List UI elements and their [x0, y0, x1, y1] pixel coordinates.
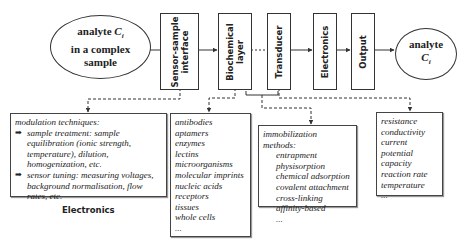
block-label: Sensor-sample	[170, 16, 180, 87]
list-item: ...	[381, 190, 438, 201]
electronics-caption: Electronics	[62, 205, 115, 215]
output-analyte-ellipse: analyte Ci	[395, 28, 457, 80]
analyte-subscript: i	[429, 59, 431, 67]
immobilization-methods-note: immobilization methods: entrapment physi…	[258, 125, 357, 207]
list-item: physisorption	[263, 161, 352, 172]
list-item: potential	[381, 148, 438, 159]
analyte-subscript: i	[122, 32, 124, 40]
list-item: chemical adsorption	[263, 171, 352, 182]
note-bullet-text: sample treatment: sample equilibration (…	[27, 128, 162, 170]
analyte-symbol: C	[421, 51, 428, 63]
transducer-block: Transducer	[267, 13, 291, 90]
note-title: immobilization methods:	[263, 129, 352, 150]
list-item: reaction rate	[381, 169, 438, 180]
note-title: modulation techniques:	[15, 117, 162, 128]
sensor-sample-interface-block: Sensor-sampleinterface	[160, 13, 199, 90]
output-analyte-label: analyte	[409, 38, 443, 51]
list-item: ...	[175, 223, 246, 234]
electronics-block: Electronics	[313, 13, 337, 90]
block-label: Transducer	[274, 25, 284, 78]
biochemical-layer-block: Biochemicallayer	[218, 13, 252, 90]
list-item: cross-linking	[263, 193, 352, 204]
list-item: conductivity	[381, 127, 438, 138]
list-item: entrapment	[263, 150, 352, 161]
list-item: enzymes	[175, 138, 246, 149]
input-analyte-label: analyte	[77, 25, 114, 37]
list-item: temperature	[381, 180, 438, 191]
biorecognition-elements-note: antibodies aptamers enzymes lectins micr…	[170, 113, 251, 237]
list-item: microorganisms	[175, 159, 246, 170]
input-analyte-line2: in a complex	[71, 43, 130, 56]
input-analyte-ellipse: analyte Ci in a complex sample	[50, 15, 151, 79]
list-item: covalent attachment	[263, 182, 352, 193]
measured-properties-note: resistance conductivity current potentia…	[376, 112, 443, 196]
block-label: layer	[235, 23, 245, 81]
list-item: affinity-based	[263, 203, 352, 214]
list-item: nucleic acids	[175, 181, 246, 192]
list-item: antibodies	[175, 117, 246, 128]
block-label: Electronics	[320, 25, 330, 78]
modulation-techniques-note: modulation techniques: ➡sample treatment…	[10, 113, 167, 197]
list-item: resistance	[381, 116, 438, 127]
analyte-symbol: C	[114, 25, 121, 37]
arrow-bullet-icon: ➡	[15, 170, 27, 202]
list-item: receptors	[175, 191, 246, 202]
block-label: Biochemical	[225, 23, 235, 81]
list-item: lectins	[175, 149, 246, 160]
list-item: molecular imprints	[175, 170, 246, 181]
list-item: capacity	[381, 158, 438, 169]
list-item: tissues	[175, 202, 246, 213]
list-item: aptamers	[175, 128, 246, 139]
arrow-bullet-icon: ➡	[15, 128, 27, 170]
note-bullet-text: sensor tuning: measuring voltages, backg…	[27, 170, 162, 202]
list-item: ...	[263, 214, 352, 225]
list-item: current	[381, 137, 438, 148]
input-analyte-line3: sample	[71, 56, 130, 69]
output-block: Output	[351, 13, 375, 90]
list-item: whole cells	[175, 212, 246, 223]
block-label: Output	[358, 35, 368, 69]
block-label: interface	[180, 16, 190, 87]
